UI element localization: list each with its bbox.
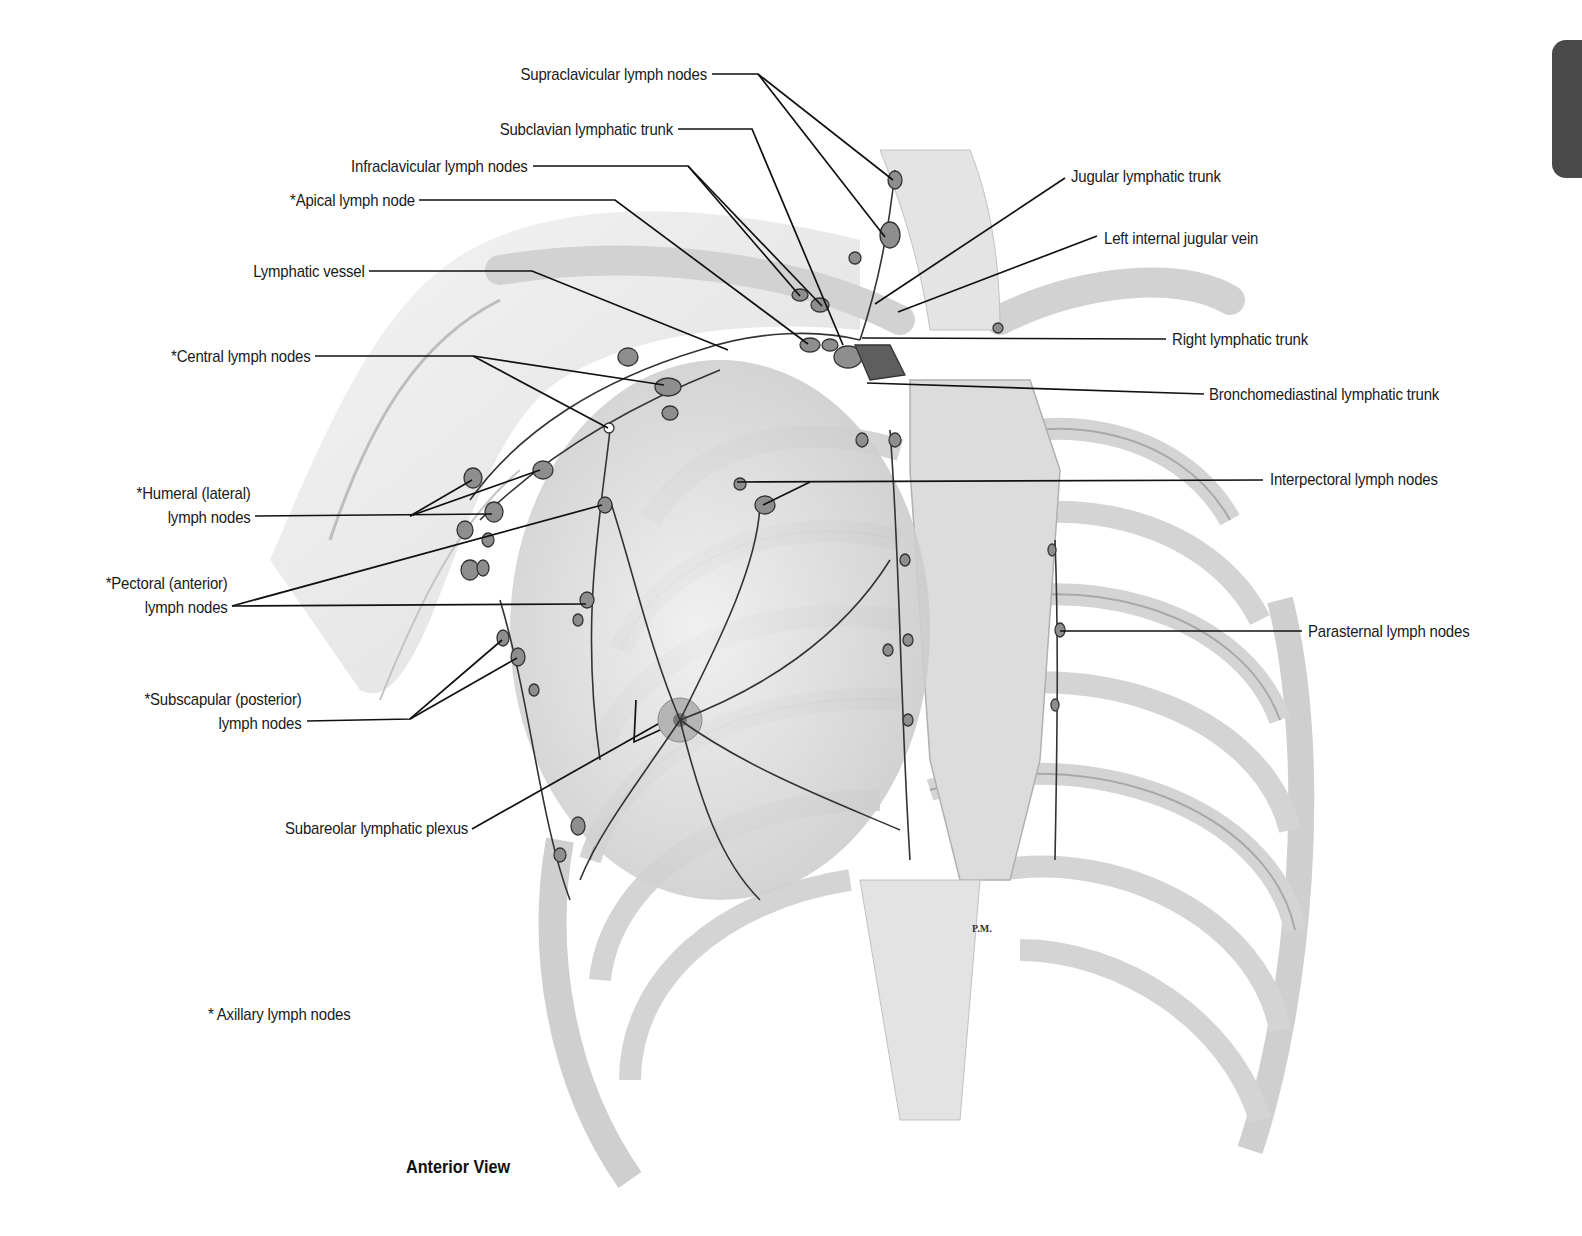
label-subareolar-lymphatic-plexus: Subareolar lymphatic plexus — [285, 818, 468, 839]
artist-signature: P.M. — [972, 923, 992, 934]
label-apical-lymph-node: *Apical lymph node — [290, 190, 415, 211]
label-subscapular-lymph-nodes: *Subscapular (posterior) lymph nodes — [145, 688, 302, 736]
label-central-lymph-nodes: *Central lymph nodes — [171, 346, 311, 367]
label-supraclavicular-lymph-nodes: Supraclavicular lymph nodes — [520, 64, 707, 85]
label-jugular-lymphatic-trunk: Jugular lymphatic trunk — [1071, 166, 1221, 187]
label-right-lymphatic-trunk: Right lymphatic trunk — [1172, 329, 1308, 350]
label-bronchomediastinal-lymphatic-trunk: Bronchomediastinal lymphatic trunk — [1209, 384, 1439, 405]
page-edge-tab — [1552, 40, 1582, 178]
label-parasternal-lymph-nodes: Parasternal lymph nodes — [1308, 621, 1469, 642]
label-pectoral-lymph-nodes: *Pectoral (anterior) lymph nodes — [106, 572, 228, 620]
label-infraclavicular-lymph-nodes: Infraclavicular lymph nodes — [351, 156, 528, 177]
label-interpectoral-lymph-nodes: Interpectoral lymph nodes — [1270, 469, 1438, 490]
label-humeral-lymph-nodes: *Humeral (lateral) lymph nodes — [137, 482, 251, 530]
view-caption: Anterior View — [406, 1157, 510, 1178]
label-subclavian-lymphatic-trunk: Subclavian lymphatic trunk — [500, 119, 673, 140]
label-left-internal-jugular-vein: Left internal jugular vein — [1104, 228, 1258, 249]
label-lymphatic-vessel: Lymphatic vessel — [254, 261, 365, 282]
footnote-axillary-lymph-nodes: * Axillary lymph nodes — [208, 1004, 350, 1025]
